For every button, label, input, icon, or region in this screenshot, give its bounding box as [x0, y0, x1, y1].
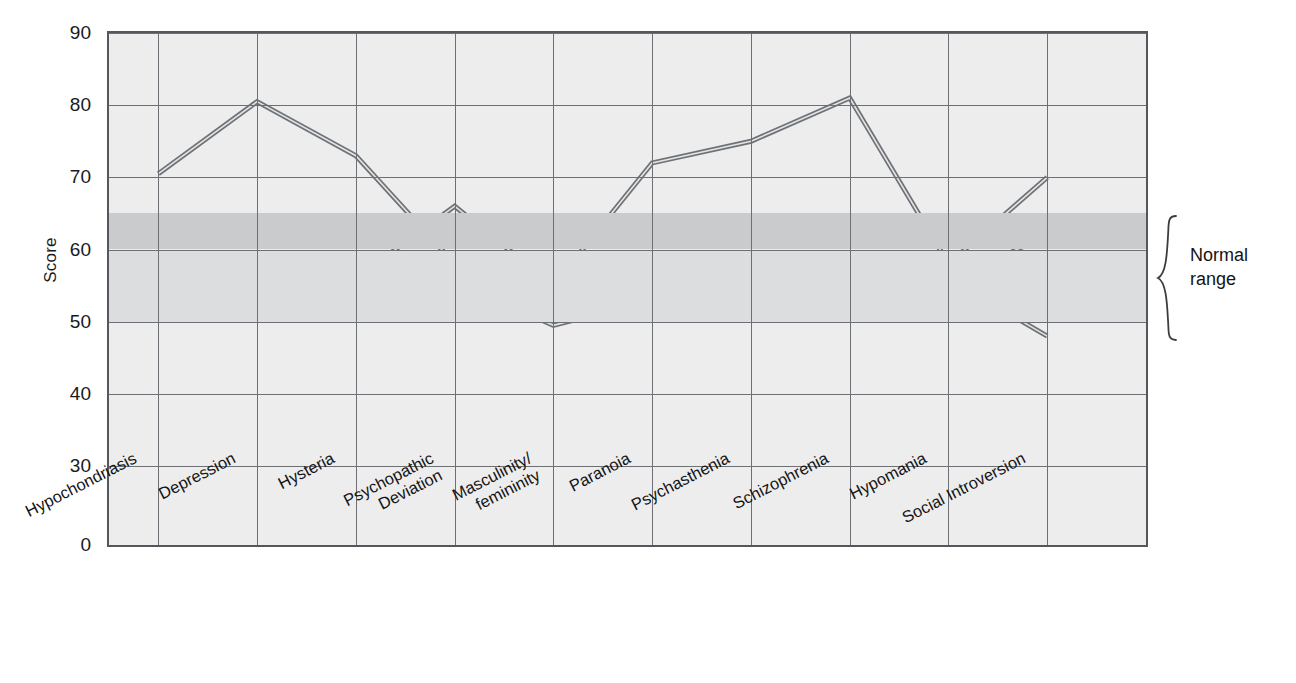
- y-tick-60: 60: [45, 240, 91, 259]
- y-tick-50: 50: [45, 312, 91, 331]
- chart-figure: Score 030405060708090 HypochondriasisDep…: [0, 0, 1296, 683]
- gridline-v-1: [257, 33, 258, 545]
- normal-range-annotation: Normal range: [1190, 243, 1248, 291]
- gridline-h-80: [109, 105, 1146, 106]
- gridline-h-90: [109, 33, 1146, 34]
- y-axis-title: Score: [41, 215, 61, 305]
- gridline-h-50: [109, 322, 1146, 323]
- gridline-v-2: [356, 33, 357, 545]
- normal-range-line2: range: [1190, 267, 1248, 291]
- normal-range-brace-icon: [1156, 214, 1178, 342]
- gridline-h-40: [109, 394, 1146, 395]
- gridline-v-9: [1047, 33, 1048, 545]
- band-normal-range-lower: [109, 250, 1146, 322]
- band-normal-range-upper: [109, 213, 1146, 249]
- normal-range-line1: Normal: [1190, 243, 1248, 267]
- gridline-v-6: [751, 33, 752, 545]
- gridline-v-3: [455, 33, 456, 545]
- y-tick-40: 40: [45, 384, 91, 403]
- gridline-v-7: [850, 33, 851, 545]
- gridline-h-70: [109, 177, 1146, 178]
- gridline-h-60: [109, 250, 1146, 251]
- y-tick-80: 80: [45, 95, 91, 114]
- y-tick-90: 90: [45, 23, 91, 42]
- gridline-v-4: [553, 33, 554, 545]
- gridline-v-0: [158, 33, 159, 545]
- y-tick-70: 70: [45, 167, 91, 186]
- gridline-v-5: [652, 33, 653, 545]
- gridline-v-8: [948, 33, 949, 545]
